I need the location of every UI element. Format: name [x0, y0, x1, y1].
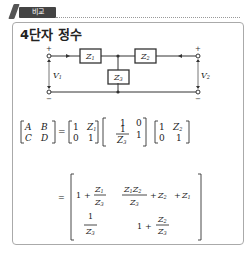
svg-text:0: 0	[73, 133, 79, 143]
svg-text:0: 0	[159, 133, 165, 143]
two-port-circuit	[47, 49, 200, 94]
svg-text:D: D	[40, 133, 48, 143]
svg-text:+: +	[174, 191, 181, 200]
svg-text:Z3: Z3	[94, 198, 104, 207]
svg-text:1: 1	[76, 191, 81, 200]
circuit-and-equations: Z1 Z2 Z3 V1 V2 + + − − A B C D Z1 Z3	[0, 0, 250, 254]
svg-text:=: =	[58, 193, 65, 202]
svg-text:Z1: Z1	[94, 185, 104, 194]
svg-text:Z1: Z1	[86, 122, 96, 132]
svg-text:Z3: Z3	[116, 135, 126, 145]
svg-text:+: +	[84, 191, 91, 200]
svg-text:B: B	[40, 122, 48, 132]
svg-text:0: 0	[136, 118, 142, 128]
svg-text:Z2: Z2	[157, 215, 167, 224]
svg-text:1: 1	[137, 222, 142, 231]
svg-text:Z2: Z2	[140, 52, 150, 61]
terminal-1-minus	[47, 90, 51, 94]
svg-text:V2: V2	[201, 71, 210, 80]
svg-text:A: A	[24, 122, 32, 132]
svg-text:Z3: Z3	[157, 227, 167, 236]
svg-text:Z3: Z3	[129, 198, 139, 207]
equation-abcd-result: = 1 + 1 1 + + + Z1 Z3 Z1Z2 Z3 Z2 Z1 Z3 Z…	[58, 174, 201, 240]
svg-text:−: −	[195, 95, 201, 103]
terminal-2-minus	[196, 90, 200, 94]
svg-text:V1: V1	[53, 71, 62, 80]
svg-text:=: =	[58, 127, 66, 137]
svg-text:Z1: Z1	[85, 52, 95, 61]
svg-text:+: +	[195, 45, 201, 53]
svg-text:1: 1	[136, 130, 142, 140]
svg-text:1: 1	[120, 124, 126, 134]
svg-text:1: 1	[88, 133, 94, 143]
svg-text:+: +	[150, 191, 157, 200]
svg-text:Z1Z2: Z1Z2	[123, 185, 142, 194]
svg-text:1: 1	[73, 122, 79, 132]
svg-text:C: C	[25, 133, 32, 143]
svg-text:Z3: Z3	[85, 227, 95, 236]
svg-text:1: 1	[88, 212, 93, 221]
svg-text:+: +	[145, 222, 152, 231]
svg-text:Z1: Z1	[181, 191, 191, 200]
terminal-1-plus	[47, 54, 51, 58]
svg-text:Z3: Z3	[113, 73, 123, 82]
terminal-2-plus	[196, 54, 200, 58]
svg-text:+: +	[46, 45, 52, 53]
svg-text:1: 1	[176, 133, 182, 143]
equation-abcd-product: A B C D Z1 Z3 Z2 = 1 0 1 1 0 1 1 1 0 1	[21, 118, 189, 146]
svg-text:−: −	[46, 95, 52, 103]
svg-text:1: 1	[159, 122, 165, 132]
svg-text:Z2: Z2	[157, 191, 167, 200]
svg-text:Z2: Z2	[172, 122, 182, 132]
circuit-markers	[47, 54, 200, 94]
